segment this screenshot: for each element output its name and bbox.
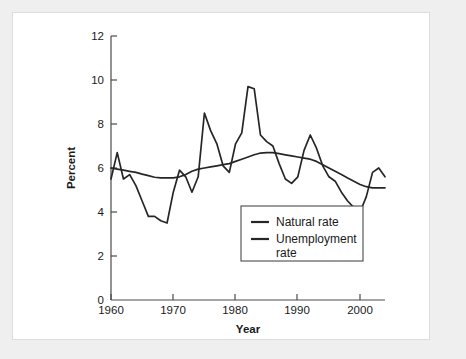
- x-tick-labels: 1960 1970 1980 1990 2000: [98, 304, 373, 316]
- y-tick-label-4: 4: [98, 206, 105, 218]
- x-tick-label-1980: 1980: [222, 304, 248, 316]
- y-axis-title: Percent: [65, 147, 77, 189]
- unemployment-chart: 12 10 8 6 4 2 0 1960 1970 1980 1990 2000…: [13, 13, 429, 339]
- x-axis-title: Year: [236, 323, 261, 335]
- y-tick-label-2: 2: [98, 250, 104, 262]
- x-tick-label-1970: 1970: [160, 304, 186, 316]
- x-tick-marks: [111, 294, 360, 300]
- x-tick-label-1990: 1990: [284, 304, 310, 316]
- series-line-unemployment-rate: [111, 87, 385, 223]
- series-line-natural-rate: [111, 153, 385, 188]
- figure-card: 12 10 8 6 4 2 0 1960 1970 1980 1990 2000…: [12, 12, 430, 340]
- y-tick-marks: [111, 36, 117, 256]
- legend-label-natural-rate: Natural rate: [276, 215, 339, 229]
- y-tick-label-10: 10: [91, 74, 104, 86]
- x-tick-label-1960: 1960: [98, 304, 124, 316]
- y-tick-label-6: 6: [98, 162, 104, 174]
- x-tick-label-2000: 2000: [347, 304, 373, 316]
- y-tick-label-12: 12: [91, 30, 104, 42]
- y-tick-labels: 12 10 8 6 4 2 0: [91, 30, 104, 306]
- legend-label-unemployment-rate-line2: rate: [276, 246, 297, 260]
- chart-legend: Natural rate Unemployment rate: [241, 206, 363, 261]
- legend-label-unemployment-rate: Unemployment: [276, 232, 357, 246]
- y-tick-label-8: 8: [98, 118, 104, 130]
